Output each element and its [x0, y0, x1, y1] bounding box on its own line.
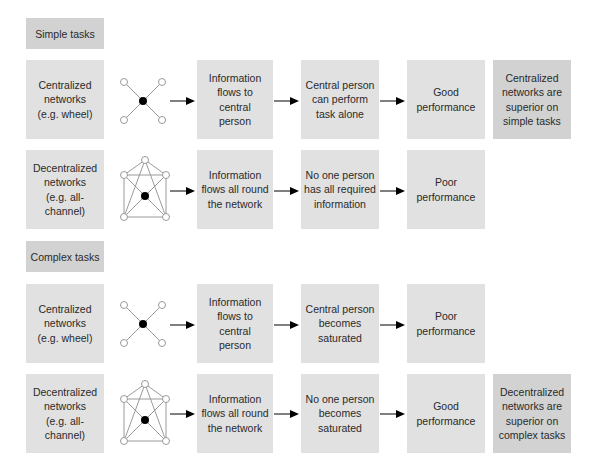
conclusion-box: Decentralized networks are superior on c… — [493, 374, 571, 453]
conclusion-box: Centralized networks are superior on sim… — [493, 60, 571, 139]
consequence-box: Central person can perform task alone — [301, 60, 379, 139]
text-line: the network — [201, 197, 268, 212]
arrow-right-icon — [170, 186, 196, 196]
text-line: channel) — [33, 428, 97, 443]
text-line: networks — [33, 175, 97, 190]
text-line: channel) — [33, 204, 97, 219]
text-line: becomes — [306, 316, 375, 331]
text-line: can perform — [306, 92, 375, 107]
text-line: Centralized — [38, 302, 93, 317]
text-line: flows to central — [200, 85, 270, 114]
text-line: performance — [417, 324, 476, 339]
section-header-label: Complex tasks — [31, 251, 100, 263]
text-line: the network — [201, 421, 268, 436]
text-line: Centralized — [502, 71, 562, 86]
text-line: flows all round — [201, 406, 268, 421]
wheel-network-icon — [118, 297, 168, 349]
text-line: person — [200, 338, 270, 353]
performance-outcome-box: Poor performance — [407, 150, 485, 229]
text-line: (e.g. all- — [33, 414, 97, 429]
performance-outcome-box: Good performance — [407, 60, 485, 139]
network-type-box: Centralized networks (e.g. wheel) — [26, 60, 104, 139]
text-line: saturated — [306, 331, 375, 346]
text-line: networks — [38, 316, 93, 331]
text-line: networks — [33, 399, 97, 414]
text-line: performance — [417, 100, 476, 115]
text-line: Good — [417, 85, 476, 100]
text-line: Decentralized — [33, 385, 97, 400]
information-flow-box: Information flows all round the network — [197, 150, 273, 229]
information-flow-box: Information flows to central person — [197, 284, 273, 363]
text-line: Information — [201, 392, 268, 407]
network-type-box: Centralized networks (e.g. wheel) — [26, 284, 104, 363]
text-line: Decentralized — [33, 161, 97, 176]
performance-outcome-box: Good performance — [407, 374, 485, 453]
performance-outcome-box: Poor performance — [407, 284, 485, 363]
text-line: flows all round — [201, 182, 268, 197]
text-line: networks — [38, 92, 93, 107]
text-line: Central person — [306, 78, 375, 93]
text-line: No one person — [306, 392, 375, 407]
arrow-right-icon — [274, 186, 300, 196]
section-header-label: Simple tasks — [35, 28, 95, 40]
section-header-complex-tasks: Complex tasks — [26, 241, 104, 272]
text-line: No one person — [304, 168, 376, 183]
all-channel-network-icon — [118, 379, 172, 449]
arrow-right-icon — [380, 409, 406, 419]
text-line: simple tasks — [502, 114, 562, 129]
network-type-box: Decentralized networks (e.g. all- channe… — [26, 150, 104, 229]
arrow-right-icon — [274, 320, 300, 330]
text-line: superior on — [502, 100, 562, 115]
consequence-box: No one person has all required informati… — [301, 150, 379, 229]
text-line: networks are — [502, 85, 562, 100]
arrow-right-icon — [170, 409, 196, 419]
text-line: (e.g. wheel) — [38, 331, 93, 346]
arrow-right-icon — [170, 320, 196, 330]
text-line: task alone — [306, 107, 375, 122]
text-line: information — [304, 197, 376, 212]
text-line: Decentralized — [499, 385, 566, 400]
wheel-network-icon — [118, 74, 168, 126]
consequence-box: Central person becomes saturated — [301, 284, 379, 363]
text-line: (e.g. all- — [33, 190, 97, 205]
text-line: superior on — [499, 414, 566, 429]
text-line: Central person — [306, 302, 375, 317]
consequence-box: No one person becomes saturated — [301, 374, 379, 453]
text-line: becomes — [306, 406, 375, 421]
arrow-right-icon — [170, 96, 196, 106]
text-line: flows to central — [200, 309, 270, 338]
text-line: Information — [200, 295, 270, 310]
information-flow-box: Information flows to central person — [197, 60, 273, 139]
text-line: (e.g. wheel) — [38, 107, 93, 122]
text-line: complex tasks — [499, 428, 566, 443]
text-line: Centralized — [38, 78, 93, 93]
text-line: person — [200, 114, 270, 129]
text-line: Good — [417, 399, 476, 414]
network-type-box: Decentralized networks (e.g. all- channe… — [26, 374, 104, 453]
text-line: has all required — [304, 182, 376, 197]
text-line: networks are — [499, 399, 566, 414]
section-header-simple-tasks: Simple tasks — [26, 18, 104, 49]
all-channel-network-icon — [118, 155, 172, 225]
arrow-right-icon — [380, 186, 406, 196]
text-line: Poor — [417, 309, 476, 324]
text-line: Poor — [417, 175, 476, 190]
arrow-right-icon — [274, 96, 300, 106]
text-line: performance — [417, 414, 476, 429]
text-line: Information — [200, 71, 270, 86]
text-line: Information — [201, 168, 268, 183]
information-flow-box: Information flows all round the network — [197, 374, 273, 453]
arrow-right-icon — [274, 409, 300, 419]
text-line: performance — [417, 190, 476, 205]
arrow-right-icon — [380, 320, 406, 330]
arrow-right-icon — [380, 96, 406, 106]
text-line: saturated — [306, 421, 375, 436]
